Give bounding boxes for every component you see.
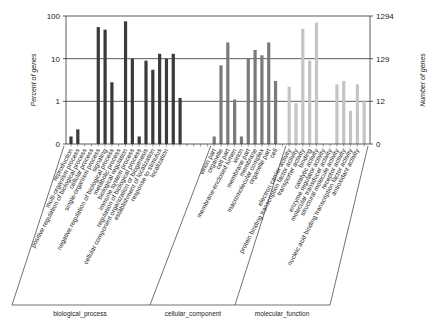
y-tick-right: 12 (376, 97, 385, 106)
group-label-molecular-function: molecular_function (255, 310, 310, 318)
bar (158, 54, 161, 144)
bar (247, 59, 250, 144)
bar (226, 42, 229, 144)
bar (253, 50, 256, 144)
bar (308, 61, 311, 144)
bar (356, 84, 359, 144)
bar (172, 54, 175, 144)
bar (144, 61, 147, 144)
y-tick-left: 1 (56, 97, 61, 106)
bar (69, 136, 72, 144)
bar (274, 81, 277, 144)
bar (213, 136, 216, 144)
category-labels: reproductionmulti-organism processpositi… (29, 146, 361, 267)
bar (363, 101, 366, 144)
bar (342, 81, 345, 144)
category-label: cell (268, 147, 279, 159)
group-label-cellular-component: cellular_component (165, 310, 222, 318)
go-annotation-chart: 10012941012911200 reproductionmulti-orga… (0, 0, 442, 329)
y-tick-left: 0 (56, 140, 61, 149)
y-tick-left: 100 (47, 12, 61, 21)
bar (349, 111, 352, 144)
group-label-biological-process: biological_process (53, 310, 107, 318)
bar (288, 87, 291, 144)
bar (165, 59, 168, 144)
y-axis-label-left: Percent of genes (30, 53, 38, 106)
bar (315, 23, 318, 144)
bar (260, 55, 263, 144)
bar (267, 42, 270, 144)
bar (294, 103, 297, 144)
bar (151, 70, 154, 144)
y-axis-label-right: Number of genes (419, 53, 427, 107)
group-divider (150, 146, 211, 305)
bar (103, 30, 106, 144)
y-tick-left: 10 (51, 55, 60, 64)
y-tick-right: 0 (376, 140, 381, 149)
bar (124, 21, 127, 144)
bar (301, 29, 304, 144)
bar (76, 129, 79, 144)
bar (233, 100, 236, 144)
bars (69, 21, 365, 144)
bar (110, 82, 113, 144)
bar (131, 59, 134, 144)
bar (97, 27, 100, 144)
bar (240, 136, 243, 144)
bar (335, 84, 338, 144)
bar (138, 136, 141, 144)
y-tick-right: 1294 (376, 12, 394, 21)
group-divider (12, 146, 64, 305)
y-tick-right: 129 (376, 55, 390, 64)
bar (178, 98, 181, 144)
bar (219, 65, 222, 144)
